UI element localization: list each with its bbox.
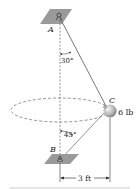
caption-fragment: [10, 187, 130, 189]
weight-label: 6 lb: [118, 108, 133, 117]
angle-label-45: 45°: [64, 131, 76, 139]
angle-label-30: 30°: [61, 57, 73, 65]
ceiling-plate-top: [40, 9, 72, 24]
point-a-label: A: [47, 25, 54, 34]
point-c-label: C: [109, 96, 115, 105]
joint-c-icon: [104, 106, 107, 109]
dimension-arrow-right-icon: [106, 177, 110, 180]
dimension-label: 3 ft: [78, 174, 91, 183]
point-b-label: B: [49, 145, 56, 154]
pendulum-diagram: A 30° 45° C 6 lb B 3 ft: [0, 0, 139, 189]
dimension-arrow-left-icon: [60, 177, 64, 180]
